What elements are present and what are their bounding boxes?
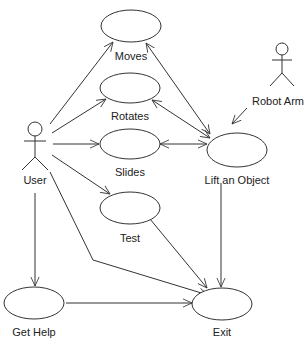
edge-test-exit: [150, 219, 207, 288]
edge-rotates-lift: [152, 100, 210, 138]
use-case-slides[interactable]: Slides: [100, 129, 160, 178]
use-case-label: Test: [120, 232, 140, 244]
use-case-label: Slides: [115, 166, 145, 178]
actor-user[interactable]: User: [22, 122, 48, 186]
use-case-label: Lift an Object: [205, 174, 270, 186]
edge-user-test: [52, 155, 110, 194]
stick-figure-icon: [22, 122, 48, 170]
use-case-rotates[interactable]: Rotates: [100, 73, 160, 122]
actor-label: Robot Arm: [252, 95, 304, 107]
use-case-label: Get Help: [12, 326, 55, 338]
actor-label: User: [23, 174, 47, 186]
stick-figure-icon: [270, 43, 294, 86]
use-case-diagram: Moves Rotates Slides Lift an Object Test…: [0, 0, 308, 344]
edge-user-rotates: [52, 99, 106, 133]
use-case-test[interactable]: Test: [100, 192, 160, 244]
use-case-label: Rotates: [111, 110, 149, 122]
use-case-exit[interactable]: Exit: [192, 288, 252, 338]
use-case-moves[interactable]: Moves: [101, 10, 161, 62]
actor-robot-arm[interactable]: Robot Arm: [252, 43, 304, 107]
use-case-lift-an-object[interactable]: Lift an Object: [205, 133, 270, 186]
use-case-get-help[interactable]: Get Help: [4, 287, 64, 338]
use-case-label: Exit: [213, 326, 231, 338]
use-case-label: Moves: [115, 50, 148, 62]
edge-robotarm-lift: [232, 108, 247, 124]
